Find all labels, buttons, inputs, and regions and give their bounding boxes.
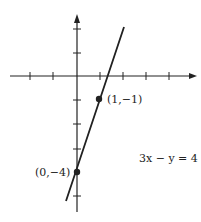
graph-canvas: (1,−1) (0,−4) 3x − y = 4 [0, 0, 201, 222]
point-label-1-neg1: (1,−1) [107, 93, 142, 106]
point-0-neg4 [74, 169, 80, 175]
point-1-neg1 [96, 96, 102, 102]
point-label-0-neg4: (0,−4) [35, 166, 70, 179]
y-axis-arrow-icon [74, 14, 80, 23]
x-axis-arrow-icon [189, 73, 197, 79]
equation-label: 3x − y = 4 [139, 152, 198, 165]
